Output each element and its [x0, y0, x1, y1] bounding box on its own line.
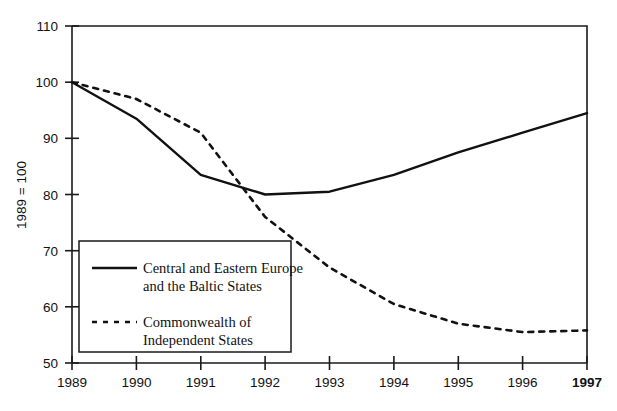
- y-tick-label: 100: [35, 75, 58, 90]
- y-tick-label: 70: [43, 244, 58, 259]
- x-tick-label: 1995: [443, 375, 473, 390]
- x-tick-labels: 1989 1990 1991 1992 1993 1994 1995 1996 …: [57, 375, 602, 390]
- y-axis-title: 1989 = 100: [14, 161, 29, 229]
- line-chart: 110 100 90 80 70 60 50 1989 = 100 1989 1…: [0, 0, 617, 411]
- x-tick-label: 1992: [250, 375, 280, 390]
- y-tick-labels: 110 100 90 80 70 60 50: [35, 19, 58, 371]
- x-tick-label: 1994: [379, 375, 410, 390]
- x-tick-label: 1989: [57, 375, 87, 390]
- y-tick-label: 60: [43, 300, 58, 315]
- x-tick-label: 1991: [186, 375, 216, 390]
- x-tick-label: 1990: [121, 375, 151, 390]
- chart-container: 110 100 90 80 70 60 50 1989 = 100 1989 1…: [0, 0, 617, 411]
- y-tick-label: 50: [43, 356, 58, 371]
- series-line-central-eastern-europe: [72, 82, 587, 194]
- x-tick-label: 1993: [314, 375, 344, 390]
- x-tick-label-emphasized: 1997: [572, 375, 602, 390]
- x-tick-label: 1996: [508, 375, 538, 390]
- y-tick-label: 80: [43, 188, 58, 203]
- legend-label-series-1-line1: Commonwealth of: [143, 314, 252, 330]
- y-tick-label: 110: [36, 19, 58, 34]
- legend-label-series-1-line2: Independent States: [143, 332, 253, 348]
- legend: Central and Eastern Europe and the Balti…: [79, 241, 303, 352]
- legend-label-series-0-line1: Central and Eastern Europe: [143, 260, 303, 276]
- legend-label-series-0-line2: and the Baltic States: [143, 278, 262, 294]
- y-tick-label: 90: [43, 131, 58, 146]
